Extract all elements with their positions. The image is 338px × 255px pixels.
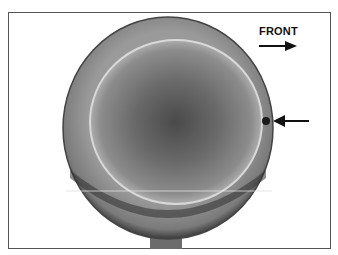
piston-notch: [262, 117, 270, 125]
piston-bowl: [90, 40, 262, 204]
arrow-left-icon: [273, 114, 313, 128]
arrow-right-icon: [259, 40, 299, 52]
front-label: FRONT: [259, 25, 298, 37]
